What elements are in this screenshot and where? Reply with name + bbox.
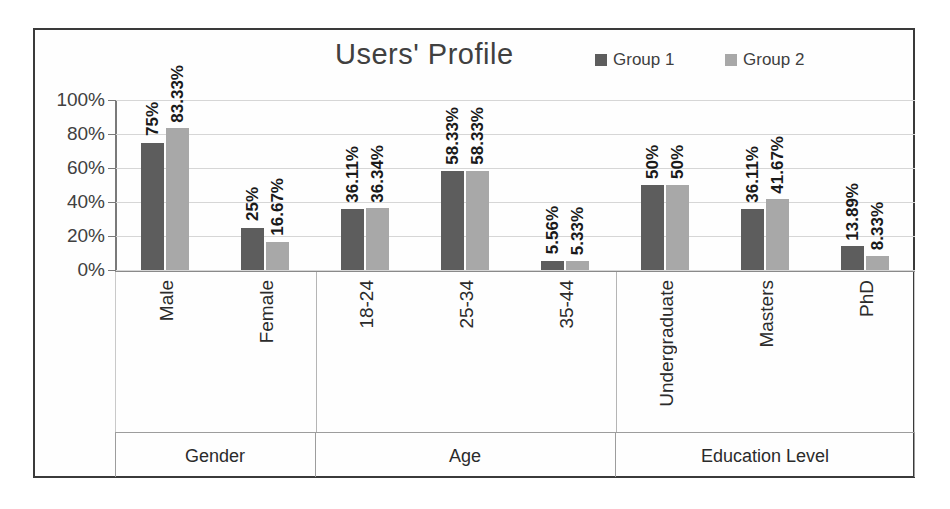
y-axis-label: 0% bbox=[35, 259, 105, 281]
category-group-separator bbox=[316, 272, 317, 432]
bar-group-1-male[interactable] bbox=[141, 143, 164, 271]
gridline bbox=[115, 134, 915, 135]
bar-value-label: 36.11% bbox=[743, 146, 763, 203]
gridline bbox=[115, 236, 915, 237]
y-axis-label: 60% bbox=[35, 157, 105, 179]
group-label-age: Age bbox=[315, 446, 615, 467]
y-axis-tick bbox=[108, 168, 116, 169]
bar-group-1-25-34[interactable] bbox=[441, 171, 464, 270]
bar-group-1-35-44[interactable] bbox=[541, 261, 564, 270]
bar-value-label: 75% bbox=[143, 102, 163, 136]
bar-group-2-female[interactable] bbox=[266, 242, 289, 270]
bar-group-2-18-24[interactable] bbox=[366, 208, 389, 270]
legend-swatch-icon-group-1 bbox=[595, 54, 607, 66]
legend-label-group-1: Group 1 bbox=[613, 50, 674, 70]
bar-group-2-25-34[interactable] bbox=[466, 171, 489, 270]
y-axis-tick bbox=[108, 100, 116, 101]
group-label-band: GenderAgeEducation Level bbox=[115, 432, 915, 476]
chart-container: Users' Profile Group 1 Group 2 100%80%60… bbox=[33, 28, 915, 478]
bar-group-1-18-24[interactable] bbox=[341, 209, 364, 270]
y-axis-tick bbox=[108, 270, 116, 271]
bar-value-label: 83.33% bbox=[168, 65, 188, 123]
bar-value-label: 41.67% bbox=[768, 136, 788, 194]
legend-item-group-1[interactable]: Group 1 bbox=[595, 50, 674, 70]
legend-label-group-2: Group 2 bbox=[743, 50, 804, 70]
plot-area: 75%83.33%25%16.67%36.11%36.34%58.33%58.3… bbox=[115, 100, 915, 270]
group-band-right-edge bbox=[914, 433, 915, 477]
bar-value-label: 8.33% bbox=[868, 202, 888, 250]
category-label-masters: Masters bbox=[756, 280, 778, 348]
bar-value-label: 13.89% bbox=[843, 183, 863, 241]
category-label-band: MaleFemale18-2425-3435-44UndergraduateMa… bbox=[115, 272, 915, 432]
y-axis-label: 20% bbox=[35, 225, 105, 247]
bar-value-label: 36.11% bbox=[343, 146, 363, 203]
bar-value-label: 5.33% bbox=[568, 207, 588, 255]
group-label-gender: Gender bbox=[115, 446, 315, 467]
bar-value-label: 58.33% bbox=[443, 107, 463, 165]
category-group-separator bbox=[616, 272, 617, 432]
bar-value-label: 50% bbox=[668, 145, 688, 179]
y-axis-label: 40% bbox=[35, 191, 105, 213]
bar-group-1-female[interactable] bbox=[241, 228, 264, 271]
legend-swatch-icon-group-2 bbox=[725, 54, 737, 66]
y-axis-tick bbox=[108, 236, 116, 237]
bar-group-1-undergraduate[interactable] bbox=[641, 185, 664, 270]
y-axis-tick bbox=[108, 134, 116, 135]
category-label-18-24: 18-24 bbox=[356, 280, 378, 329]
bar-value-label: 58.33% bbox=[468, 107, 488, 165]
bar-group-2-masters[interactable] bbox=[766, 199, 789, 270]
bar-value-label: 25% bbox=[243, 187, 263, 221]
gridline bbox=[115, 168, 915, 169]
bar-group-2-undergraduate[interactable] bbox=[666, 185, 689, 270]
bar-value-label: 16.67% bbox=[268, 178, 288, 236]
bar-value-label: 50% bbox=[643, 145, 663, 179]
bar-value-label: 36.34% bbox=[368, 145, 388, 203]
gridline bbox=[115, 202, 915, 203]
category-label-25-34: 25-34 bbox=[456, 280, 478, 329]
group-band-left-edge bbox=[115, 433, 116, 477]
bar-group-2-male[interactable] bbox=[166, 128, 189, 270]
y-axis-label: 80% bbox=[35, 123, 105, 145]
bar-group-2-phd[interactable] bbox=[866, 256, 889, 270]
bar-value-label: 5.56% bbox=[543, 206, 563, 254]
category-label-female: Female bbox=[256, 280, 278, 343]
category-label-male: Male bbox=[156, 280, 178, 321]
category-label-35-44: 35-44 bbox=[556, 280, 578, 329]
legend-item-group-2[interactable]: Group 2 bbox=[725, 50, 804, 70]
chart-title: Users' Profile bbox=[335, 38, 514, 71]
bar-group-1-masters[interactable] bbox=[741, 209, 764, 270]
chart-header: Users' Profile Group 1 Group 2 bbox=[35, 36, 913, 80]
gridline bbox=[115, 100, 915, 101]
bar-group-2-35-44[interactable] bbox=[566, 261, 589, 270]
category-label-phd: PhD bbox=[856, 280, 878, 317]
y-axis-label: 100% bbox=[35, 89, 105, 111]
group-label-education-level: Education Level bbox=[615, 446, 915, 467]
category-label-undergraduate: Undergraduate bbox=[656, 280, 678, 407]
bar-group-1-phd[interactable] bbox=[841, 246, 864, 270]
y-axis-labels: 100%80%60%40%20%0% bbox=[35, 100, 105, 271]
y-axis-tick bbox=[108, 202, 116, 203]
